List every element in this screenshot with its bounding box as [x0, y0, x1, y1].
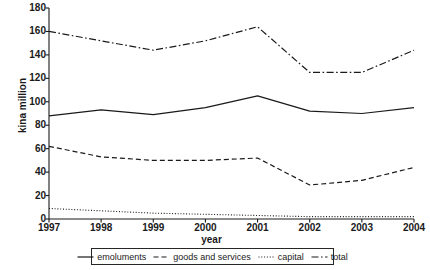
x-tick-label: 2004: [392, 222, 430, 233]
legend-swatch-solid: [77, 253, 94, 261]
legend-swatch-dashdot: [311, 253, 328, 261]
x-tick-label: 2002: [288, 222, 332, 233]
x-tick-label: 1998: [79, 222, 123, 233]
x-tick-label: 2000: [183, 222, 227, 233]
legend-label: capital: [278, 252, 304, 262]
legend-swatch-dashed: [153, 253, 170, 261]
x-tick-label: 2001: [236, 222, 280, 233]
x-tick-label: 1997: [27, 222, 71, 233]
x-tick-label: 2003: [340, 222, 384, 233]
chart-legend: emolumentsgoods and servicescapitaltotal: [91, 248, 334, 265]
legend-item-emoluments[interactable]: emoluments: [77, 252, 146, 262]
legend-label: emoluments: [97, 252, 146, 262]
x-tick-label: 1999: [131, 222, 175, 233]
legend-item-goods-and-services[interactable]: goods and services: [153, 252, 251, 262]
legend-label: total: [331, 252, 348, 262]
legend-item-capital[interactable]: capital: [258, 252, 304, 262]
x-axis-title: year: [0, 234, 423, 245]
legend-swatch-dotted: [258, 253, 275, 261]
legend-item-total[interactable]: total: [311, 252, 348, 262]
legend-label: goods and services: [173, 252, 251, 262]
